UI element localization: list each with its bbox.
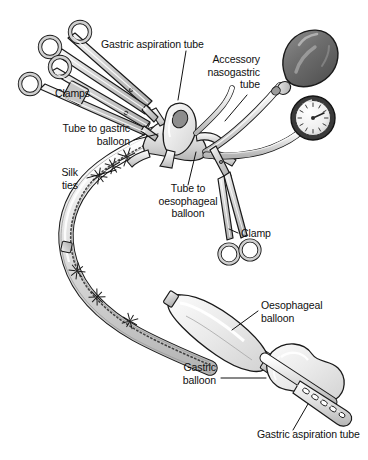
label-clamp-right: Clamp (241, 227, 271, 240)
label-oesophageal-balloon: Oesophageal balloon (261, 299, 347, 324)
label-gastric-aspiration-tube-top: Gastric aspiration tube (101, 38, 204, 51)
pressure-gauge-dial (291, 96, 335, 140)
label-clamps: Clamps (55, 87, 90, 100)
label-tube-to-gastric-balloon: Tube to gastric balloon (20, 122, 130, 147)
tube-collar (61, 241, 73, 253)
main-tube-shaft (61, 136, 211, 373)
medical-illustration-sengstaken-blakemore-tube: Gastric aspiration tube Accessory nasoga… (0, 0, 368, 460)
label-accessory-nasogastric-tube: Accessory nasogastric tube (178, 53, 260, 91)
accessory-nasogastric-tube (206, 86, 280, 152)
rubber-inflation-bulb (270, 30, 338, 101)
label-silk-ties: Silk ties (30, 166, 78, 191)
label-gastric-balloon: Gastric balloon (150, 361, 216, 386)
label-gastric-aspiration-tube-bottom: Gastric aspiration tube (257, 428, 360, 441)
label-tube-to-oesophageal-balloon: Tube to oesophageal balloon (148, 182, 228, 220)
accessory-tube-branch (196, 88, 232, 133)
